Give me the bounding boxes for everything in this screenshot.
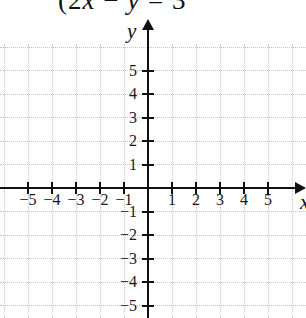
y-tick-label: −3 xyxy=(102,251,142,267)
gridline-vertical xyxy=(76,44,77,318)
y-tick-mark xyxy=(142,140,154,142)
equation-caption: (2x − y = 3 xyxy=(58,0,186,14)
y-tick-mark xyxy=(142,93,154,95)
gridline-vertical xyxy=(244,44,245,318)
y-tick-mark xyxy=(142,305,154,307)
y-tick-label: 5 xyxy=(102,63,142,79)
y-tick-label: 2 xyxy=(102,133,142,149)
y-tick-label: 4 xyxy=(102,86,142,102)
equation-text: = 3 xyxy=(140,0,186,15)
y-tick-label: −4 xyxy=(102,274,142,290)
gridline-vertical xyxy=(220,44,221,318)
gridline-horizontal xyxy=(0,47,306,48)
y-tick-mark xyxy=(142,70,154,72)
gridline-vertical xyxy=(4,44,5,318)
equation-variable: y xyxy=(127,0,140,15)
gridline-vertical xyxy=(196,44,197,318)
equation-text: (2 xyxy=(58,0,83,15)
y-tick-mark xyxy=(142,164,154,166)
y-tick-label: 1 xyxy=(102,157,142,173)
gridline-vertical xyxy=(28,44,29,318)
gridline-vertical xyxy=(52,44,53,318)
equation-variable: x xyxy=(83,0,96,15)
gridline-vertical xyxy=(100,44,101,318)
y-tick-label: −2 xyxy=(102,227,142,243)
coordinate-plane: (2x − y = 3 y x −5−4−3−2−11234554321−1−2… xyxy=(0,0,306,318)
y-tick-mark xyxy=(142,117,154,119)
gridline-vertical xyxy=(268,44,269,318)
x-axis-label: x xyxy=(300,192,306,213)
gridline-vertical xyxy=(172,44,173,318)
y-axis-arrow-icon xyxy=(142,19,154,30)
y-tick-label: −1 xyxy=(102,204,142,220)
x-tick-label: 5 xyxy=(253,192,283,208)
gridline-vertical xyxy=(292,44,293,318)
x-axis-line xyxy=(0,187,298,189)
y-tick-mark xyxy=(142,211,154,213)
equation-text: − xyxy=(95,0,127,15)
y-tick-mark xyxy=(142,234,154,236)
y-tick-mark xyxy=(142,258,154,260)
y-tick-mark xyxy=(142,281,154,283)
y-tick-label: −5 xyxy=(102,298,142,314)
y-axis-label: y xyxy=(127,21,136,42)
y-tick-label: 3 xyxy=(102,110,142,126)
